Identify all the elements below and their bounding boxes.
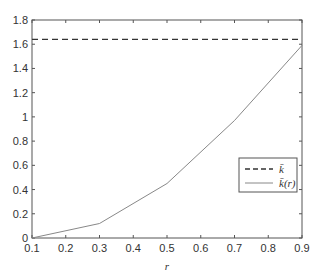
- x-tick-label: 0.9: [294, 242, 309, 254]
- x-tick-label: 0.4: [126, 242, 141, 254]
- legend: k̄ k̄(r): [239, 158, 297, 192]
- y-tick-label: 0.2: [13, 208, 28, 220]
- x-tick-label: 0.3: [92, 242, 107, 254]
- y-tick-label: 1.4: [13, 62, 28, 74]
- y-tick-label: 1.8: [13, 14, 28, 26]
- x-tick-label: 0.5: [159, 242, 174, 254]
- y-tick-label: 1.2: [13, 87, 28, 99]
- x-axis-label: r: [165, 260, 170, 272]
- y-tick-label: 1: [22, 111, 28, 123]
- plot-area: [32, 20, 302, 238]
- y-tick-label: 0.4: [13, 184, 28, 196]
- legend-label-kbar-r: k̄(r): [279, 177, 296, 190]
- x-tick-label: 0.6: [193, 242, 208, 254]
- y-tick-label: 0.8: [13, 135, 28, 147]
- x-tick-label: 0.1: [24, 242, 39, 254]
- x-tick-label: 0.2: [58, 242, 73, 254]
- line-chart: 00.20.40.60.811.21.41.61.8 0.10.20.30.40…: [0, 0, 318, 280]
- x-tick-label: 0.8: [261, 242, 276, 254]
- y-tick-label: 1.6: [13, 38, 28, 50]
- x-tick-label: 0.7: [227, 242, 242, 254]
- y-tick-label: 0.6: [13, 159, 28, 171]
